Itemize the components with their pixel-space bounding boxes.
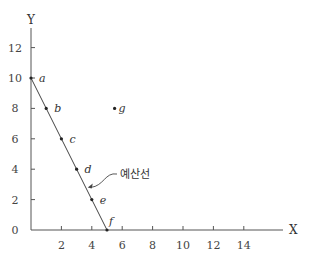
x-tick-label: 2 <box>58 239 65 252</box>
data-point <box>45 107 48 110</box>
data-point <box>60 137 63 140</box>
y-tick-label: 0 <box>12 224 19 237</box>
point-label-b: b <box>54 102 61 115</box>
budget-line-chart: XY2468101214024681012abcdefg예산선 <box>0 0 309 264</box>
data-point <box>75 168 78 171</box>
x-tick-label: 12 <box>206 239 220 252</box>
y-tick-label: 2 <box>12 194 19 207</box>
y-axis-label: Y <box>26 13 36 27</box>
data-point <box>29 76 32 79</box>
y-tick-label: 12 <box>8 42 22 55</box>
x-tick-label: 4 <box>88 239 95 252</box>
point-label-g: g <box>119 102 126 115</box>
x-axis-label: X <box>289 223 298 237</box>
x-tick-label: 10 <box>176 239 190 252</box>
point-label-c: c <box>69 133 75 146</box>
annotation-arrow <box>91 174 117 188</box>
y-tick-label: 4 <box>12 163 19 176</box>
x-tick-label: 8 <box>149 239 156 252</box>
x-tick-label: 6 <box>119 239 126 252</box>
y-tick-label: 10 <box>8 72 22 85</box>
data-point <box>90 198 93 201</box>
budget-line-label: 예산선 <box>120 168 150 181</box>
point-label-f: f <box>108 215 115 228</box>
y-tick-label: 8 <box>12 102 19 115</box>
point-label-d: d <box>85 163 92 176</box>
y-tick-label: 6 <box>12 133 19 146</box>
x-tick-label: 14 <box>237 239 251 252</box>
point-label-a: a <box>39 72 46 85</box>
point-label-e: e <box>100 194 107 207</box>
data-point <box>105 228 108 231</box>
data-point <box>113 107 116 110</box>
budget-line <box>31 78 107 230</box>
